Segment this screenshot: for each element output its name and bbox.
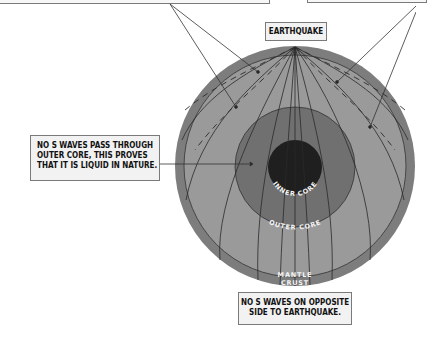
top-left-callout-box [0,0,270,4]
callout-line: THAT IT IS LIQUID IN NATURE. [37,161,159,171]
callout-line: NO S WAVES PASS THROUGH [37,141,159,151]
crust-label: CRUST [281,279,309,287]
outer-core-liquid-callout: NO S WAVES PASS THROUGH OUTER CORE, THIS… [30,135,160,181]
callout-line: OUTER CORE, THIS PROVES [37,151,159,161]
opposite-side-callout: NO S WAVES ON OPPOSITE SIDE TO EARTHQUAK… [238,292,352,325]
callout-line: SIDE TO EARTHQUAKE. [239,308,351,318]
top-right-callout-box [307,0,427,3]
mantle-label: MANTLE [278,271,313,279]
callout-line: NO S WAVES ON OPPOSITE [239,298,351,308]
earthquake-label: EARTHQUAKE [265,22,327,41]
